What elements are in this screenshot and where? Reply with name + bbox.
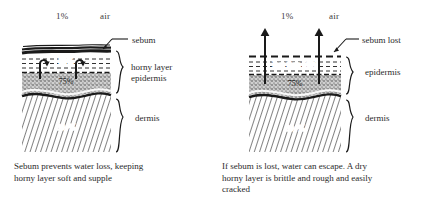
- dermis-value-left: 80+%: [56, 123, 76, 132]
- horny-layer-value-left: 50%: [59, 57, 74, 66]
- panel-with-sebum: 1% air sebum horny layer epidermis dermi…: [0, 0, 219, 205]
- brace-dermis-left: [116, 99, 123, 152]
- dermis-value-right: 80+%: [285, 124, 305, 133]
- brace-dermis-right: [346, 100, 353, 152]
- panel-sebum-lost: 1% air sebum lost epidermis dermis If se…: [219, 0, 438, 205]
- epidermis-value-left: 75%: [59, 77, 74, 86]
- diagram-sebum-lost: 80+% 75% less than 50%: [219, 0, 438, 205]
- brace-epidermis-right: [346, 57, 353, 94]
- brace-epidermis-left: [116, 51, 123, 93]
- diagram-with-sebum: 80+% 75% 50%: [0, 0, 219, 205]
- sebum-band-left: [22, 45, 111, 53]
- epidermis-value-right: 75%: [288, 79, 303, 88]
- horny-layer-value-right: less than 50%: [273, 60, 318, 69]
